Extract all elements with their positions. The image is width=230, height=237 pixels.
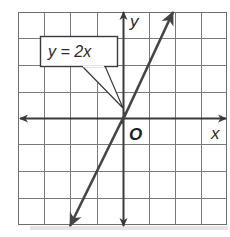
callout-pointer: [82, 66, 123, 108]
grid-shadow: [30, 226, 228, 230]
y-axis-label: y: [129, 12, 140, 31]
line-y-equals-2x: [121, 12, 173, 124]
equation-callout: y = 2x: [41, 37, 124, 109]
equation-label: y = 2x: [47, 43, 92, 60]
origin-label: O: [129, 125, 142, 144]
x-axis-label: x: [210, 124, 220, 143]
coordinate-graph: y = 2x y x O: [0, 0, 230, 237]
